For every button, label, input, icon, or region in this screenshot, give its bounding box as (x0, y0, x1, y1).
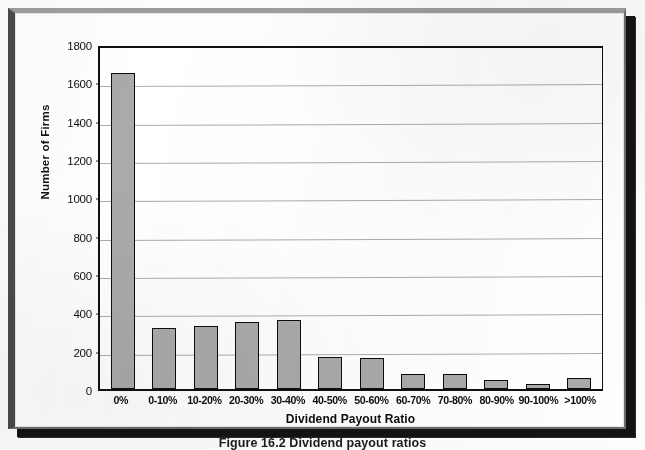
x-axis-tick-label: 90-100% (518, 394, 560, 406)
bar-slot (559, 48, 601, 389)
y-axis-tick-label: 1000 (67, 193, 92, 205)
bar (567, 378, 591, 389)
bar (277, 320, 301, 389)
bar-series (100, 48, 602, 389)
x-axis-tick-label: 30-40% (267, 394, 309, 406)
y-axis-tick-label: 1600 (67, 78, 92, 90)
x-axis-tick-label: 0-10% (142, 394, 184, 406)
bar (111, 73, 135, 389)
bar (235, 322, 259, 389)
figure-caption: Figure 16.2 Dividend payout ratios (0, 436, 645, 450)
bar (152, 328, 176, 389)
bar-slot (434, 48, 476, 389)
y-axis-tick-label: 600 (73, 270, 92, 282)
bar (484, 380, 508, 389)
x-axis-tick-label: >100% (559, 394, 601, 406)
bar-slot (102, 48, 144, 389)
plot-area (98, 46, 603, 391)
bar-slot (268, 48, 310, 389)
bar-slot (227, 48, 269, 389)
bar-slot (393, 48, 435, 389)
bar-slot (351, 48, 393, 389)
x-axis-tick-label: 80-90% (476, 394, 518, 406)
x-axis-title: Dividend Payout Ratio (98, 412, 603, 426)
figure-frame-inner: Number of Firms 020040060080010001200140… (15, 13, 624, 427)
bar (194, 326, 218, 389)
y-axis-tick-label: 1200 (67, 155, 92, 167)
figure-frame: Number of Firms 020040060080010001200140… (8, 8, 626, 429)
x-axis-tick-label: 60-70% (392, 394, 434, 406)
y-axis-tick-label: 800 (73, 232, 92, 244)
bar-slot (144, 48, 186, 389)
bar (318, 357, 342, 389)
x-axis-tick-labels: 0%0-10%10-20%20-30%30-40%40-50%50-60%60-… (98, 394, 603, 406)
bar (360, 358, 384, 389)
bar-chart: Number of Firms 020040060080010001200140… (16, 14, 625, 428)
x-axis-tick-label: 20-30% (225, 394, 267, 406)
bar-slot (185, 48, 227, 389)
y-axis-tick-label: 200 (73, 347, 92, 359)
x-axis-tick-label: 0% (100, 394, 142, 406)
bar-slot (476, 48, 518, 389)
y-axis-tick-label: 1400 (67, 117, 92, 129)
x-axis-tick-label: 70-80% (434, 394, 476, 406)
bar-slot (517, 48, 559, 389)
x-axis-tick-label: 40-50% (309, 394, 351, 406)
bar-slot (310, 48, 352, 389)
x-axis-tick-label: 10-20% (184, 394, 226, 406)
bar (443, 374, 467, 389)
y-axis-tick-label: 400 (73, 308, 92, 320)
x-axis-tick-label: 50-60% (351, 394, 393, 406)
bar (526, 384, 550, 389)
bar (401, 374, 425, 389)
y-axis-tick-label: 0 (86, 385, 92, 397)
y-axis-title: Number of Firms (39, 87, 51, 217)
y-axis-tick-labels: 020040060080010001200140016001800 (52, 46, 96, 391)
y-axis-tick-label: 1800 (67, 40, 92, 52)
